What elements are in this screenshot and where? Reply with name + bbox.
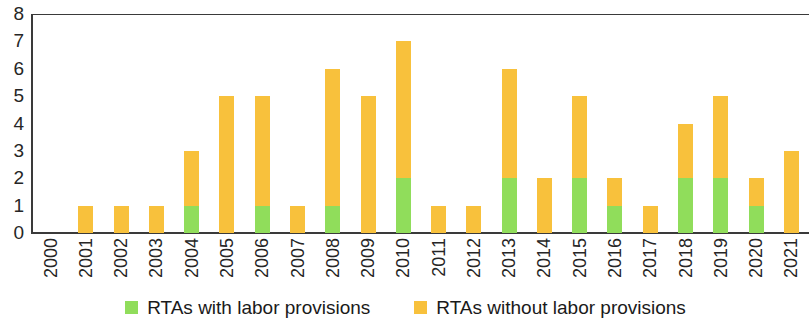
bar-2019[interactable]	[713, 96, 728, 233]
y-axis-tick-label: 4	[13, 114, 24, 133]
y-axis-tick-label: 0	[13, 223, 24, 242]
orange-square-icon	[414, 301, 427, 314]
bar-2016[interactable]	[607, 178, 622, 233]
bar-slot-2005	[209, 14, 244, 233]
y-axis-tick-label: 8	[13, 4, 24, 23]
bar-2002[interactable]	[114, 206, 129, 233]
bar-segment-with-labor-provisions	[184, 206, 199, 233]
x-axis-tick-2020: 2020	[738, 236, 773, 294]
bar-2008[interactable]	[325, 69, 340, 233]
x-axis-tick-2007: 2007	[280, 236, 315, 294]
bar-segment-without-labor-provisions	[749, 178, 764, 205]
bar-2004[interactable]	[184, 151, 199, 233]
bar-2003[interactable]	[149, 206, 164, 233]
bar-slot-2011	[421, 14, 456, 233]
x-axis-tick-label: 2006	[253, 238, 271, 278]
legend-item-label: RTAs without labor provisions	[436, 298, 686, 317]
bar-2014[interactable]	[537, 178, 552, 233]
bar-2013[interactable]	[502, 69, 517, 233]
y-axis: 876543210	[0, 0, 30, 245]
bar-slot-2012	[456, 14, 491, 233]
bar-2018[interactable]	[678, 124, 693, 234]
x-axis-tick-label: 2008	[324, 238, 342, 278]
x-axis-tick-2001: 2001	[68, 236, 103, 294]
bar-slot-2013	[492, 14, 527, 233]
x-axis: 2000200120022003200420052006200720082009…	[33, 236, 809, 294]
bar-slot-2003	[139, 14, 174, 233]
x-axis-tick-label: 2002	[112, 238, 130, 278]
bar-slot-2006	[245, 14, 280, 233]
bar-slot-2020	[738, 14, 773, 233]
bar-segment-without-labor-provisions	[114, 206, 129, 233]
bar-slot-2001	[68, 14, 103, 233]
bar-slot-2019	[703, 14, 738, 233]
bar-2012[interactable]	[466, 206, 481, 233]
bar-segment-with-labor-provisions	[572, 178, 587, 233]
bar-segment-without-labor-provisions	[502, 69, 517, 179]
x-axis-tick-label: 2012	[465, 238, 483, 278]
bar-segment-with-labor-provisions	[749, 206, 764, 233]
bar-slot-2000	[33, 14, 68, 233]
bar-2017[interactable]	[643, 206, 658, 233]
y-axis-tick-label: 5	[13, 86, 24, 105]
bar-2005[interactable]	[219, 96, 234, 233]
x-axis-tick-label: 2016	[606, 238, 624, 278]
y-axis-tick-label: 3	[13, 141, 24, 160]
x-axis-tick-2015: 2015	[562, 236, 597, 294]
bar-slot-2017	[633, 14, 668, 233]
bar-2010[interactable]	[396, 41, 411, 233]
bar-2007[interactable]	[290, 206, 305, 233]
x-axis-tick-2019: 2019	[703, 236, 738, 294]
x-axis-tick-2008: 2008	[315, 236, 350, 294]
x-axis-tick-label: 2011	[430, 238, 448, 277]
bar-slot-2014	[527, 14, 562, 233]
x-axis-tick-2016: 2016	[597, 236, 632, 294]
y-axis-tick-label: 7	[13, 31, 24, 50]
y-axis-tick-label: 2	[13, 168, 24, 187]
bar-segment-with-labor-provisions	[396, 178, 411, 233]
bar-segment-with-labor-provisions	[255, 206, 270, 233]
bar-segment-without-labor-provisions	[537, 178, 552, 233]
x-axis-tick-label: 2021	[782, 238, 800, 278]
x-axis-tick-2013: 2013	[492, 236, 527, 294]
x-axis-tick-label: 2003	[147, 238, 165, 278]
bar-segment-without-labor-provisions	[396, 41, 411, 178]
bar-segment-without-labor-provisions	[325, 69, 340, 206]
x-axis-tick-label: 2019	[712, 238, 730, 278]
x-axis-tick-2010: 2010	[386, 236, 421, 294]
bar-2006[interactable]	[255, 96, 270, 233]
chart-legend: RTAs with labor provisions RTAs without …	[0, 294, 811, 321]
x-axis-tick-2000: 2000	[33, 236, 68, 294]
bar-2021[interactable]	[784, 151, 799, 233]
x-axis-tick-2011: 2011	[421, 236, 456, 294]
bar-segment-without-labor-provisions	[572, 96, 587, 178]
bar-slot-2016	[597, 14, 632, 233]
plot-area	[33, 14, 809, 233]
legend-item-with-labor-provisions[interactable]: RTAs with labor provisions	[125, 298, 370, 317]
bar-segment-with-labor-provisions	[713, 178, 728, 233]
bar-segment-without-labor-provisions	[255, 96, 270, 206]
bar-2001[interactable]	[78, 206, 93, 233]
bar-2020[interactable]	[749, 178, 764, 233]
y-axis-tick-label: 1	[13, 196, 24, 215]
bar-segment-without-labor-provisions	[431, 206, 446, 233]
bar-segment-with-labor-provisions	[607, 206, 622, 233]
legend-item-without-labor-provisions[interactable]: RTAs without labor provisions	[414, 298, 686, 317]
x-axis-tick-label: 2000	[42, 238, 60, 278]
bar-segment-without-labor-provisions	[149, 206, 164, 233]
bar-2009[interactable]	[361, 96, 376, 233]
bar-slot-2007	[280, 14, 315, 233]
bar-segment-with-labor-provisions	[502, 178, 517, 233]
bar-slot-2002	[104, 14, 139, 233]
x-axis-tick-label: 2009	[359, 238, 377, 278]
bar-segment-without-labor-provisions	[784, 151, 799, 233]
bar-slot-2010	[386, 14, 421, 233]
bar-segment-with-labor-provisions	[678, 178, 693, 233]
x-axis-tick-2002: 2002	[104, 236, 139, 294]
bar-2015[interactable]	[572, 96, 587, 233]
bar-segment-without-labor-provisions	[219, 96, 234, 233]
bar-2011[interactable]	[431, 206, 446, 233]
bar-slot-2009	[350, 14, 385, 233]
x-axis-tick-label: 2020	[747, 238, 765, 278]
bar-segment-without-labor-provisions	[607, 178, 622, 205]
